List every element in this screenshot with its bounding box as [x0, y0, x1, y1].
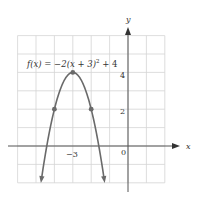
left-arrow-icon — [39, 176, 44, 183]
data-point — [70, 70, 75, 75]
data-point — [52, 107, 57, 112]
equation-label: f(x) = −2(x + 3)2 + 4 — [26, 58, 117, 69]
x-axis-arrow-icon — [172, 143, 180, 149]
tick-label-neg3: −3 — [66, 150, 78, 159]
right-arrow-icon — [101, 176, 106, 183]
tick-label-2: 2 — [120, 107, 125, 116]
parabola-graph: x y −3 0 2 4 f(x) = −2(x + 3)2 + 4 — [0, 0, 200, 199]
y-axis-arrow-icon — [125, 27, 131, 35]
y-axis-label: y — [125, 15, 131, 24]
x-axis-label: x — [186, 142, 191, 151]
data-point — [89, 107, 94, 112]
tick-label-4: 4 — [120, 71, 125, 80]
tick-label-0: 0 — [121, 148, 126, 157]
